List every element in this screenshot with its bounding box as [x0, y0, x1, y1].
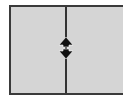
resize-vertical-cursor-icon [58, 37, 74, 59]
left-pane [11, 7, 65, 93]
right-pane [67, 7, 120, 93]
